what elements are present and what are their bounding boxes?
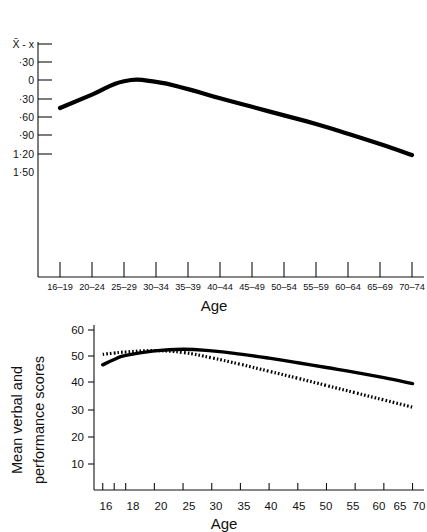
top-x-tick-10: 65–69 — [367, 282, 393, 292]
bottom-chart-x-axis-title: Age — [211, 515, 238, 532]
top-x-tick-6: 45–49 — [239, 282, 265, 292]
top-x-tick-11: 70–74 — [399, 282, 425, 292]
top-chart-y-ticks — [38, 44, 52, 154]
top-x-tick-0: 16–19 — [47, 282, 73, 292]
top-chart-x-axis-title: Age — [201, 297, 228, 314]
bottom-x-tick-11: 65 — [394, 500, 407, 512]
bottom-y-tick-50: 50 — [71, 350, 84, 362]
bottom-x-tick-6: 40 — [265, 500, 278, 512]
bottom-y-tick-60: 60 — [71, 324, 84, 336]
top-x-tick-4: 35–39 — [175, 282, 201, 292]
top-y-tick-6: 1·20 — [13, 148, 34, 160]
figure-container: X̄ - x ·30 0 ·30 ·60 ·90 1·20 1·50 1 — [0, 0, 427, 532]
bottom-y-tick-10: 10 — [71, 458, 84, 470]
bottom-x-tick-1: 18 — [127, 500, 140, 512]
bottom-y-tick-40: 40 — [71, 376, 84, 388]
top-x-tick-1: 20–24 — [79, 282, 105, 292]
bottom-x-tick-7: 45 — [293, 500, 306, 512]
top-x-tick-5: 40–44 — [207, 282, 233, 292]
top-x-tick-2: 25–29 — [111, 282, 137, 292]
bottom-chart-verbal-line — [103, 349, 413, 383]
top-y-tick-2: 0 — [28, 74, 34, 86]
bottom-x-tick-2: 20 — [155, 500, 168, 512]
bottom-chart-y-axis-title-line1: Mean verbal and — [9, 366, 25, 474]
top-y-tick-3: ·30 — [19, 93, 34, 105]
bottom-chart-x-ticks — [103, 483, 413, 490]
bottom-x-tick-10: 60 — [373, 500, 386, 512]
bottom-chart-x-tick-labels: 16 18 20 25 30 35 40 45 50 55 60 65 70 — [100, 500, 426, 512]
bottom-x-tick-5: 35 — [238, 500, 251, 512]
bottom-chart: 60 50 40 30 20 10 16 18 20 25 30 35 40 4… — [0, 320, 427, 532]
top-chart-y-tick-labels: X̄ - x ·30 0 ·30 ·60 ·90 1·20 1·50 — [12, 38, 34, 178]
top-chart: X̄ - x ·30 0 ·30 ·60 ·90 1·20 1·50 1 — [0, 0, 427, 320]
bottom-chart-performance-line — [103, 351, 413, 408]
bottom-x-tick-4: 30 — [210, 500, 223, 512]
top-y-tick-0: X̄ - x — [12, 38, 34, 50]
bottom-y-tick-20: 20 — [71, 431, 84, 443]
top-x-tick-7: 50–54 — [271, 282, 297, 292]
bottom-x-tick-12: 70 — [413, 500, 426, 512]
top-y-tick-1: ·30 — [19, 56, 34, 68]
bottom-x-tick-9: 55 — [347, 500, 360, 512]
bottom-chart-y-axis-title-line2: performance scores — [31, 356, 47, 484]
bottom-x-tick-0: 16 — [100, 500, 113, 512]
bottom-x-tick-3: 25 — [183, 500, 196, 512]
top-x-tick-8: 55–59 — [303, 282, 329, 292]
top-chart-series-line — [60, 80, 412, 155]
top-chart-x-tick-labels: 16–19 20–24 25–29 30–34 35–39 40–44 45–4… — [47, 282, 425, 292]
top-y-tick-4: ·60 — [19, 111, 34, 123]
top-x-tick-9: 60–64 — [335, 282, 361, 292]
top-y-tick-5: ·90 — [19, 129, 34, 141]
bottom-y-tick-30: 30 — [71, 404, 84, 416]
bottom-chart-y-tick-labels: 60 50 40 30 20 10 — [71, 324, 84, 470]
top-chart-x-ticks — [60, 262, 412, 277]
bottom-x-tick-8: 50 — [320, 500, 333, 512]
top-y-tick-7: 1·50 — [13, 166, 34, 178]
bottom-chart-y-ticks — [88, 330, 94, 464]
top-x-tick-3: 30–34 — [143, 282, 169, 292]
